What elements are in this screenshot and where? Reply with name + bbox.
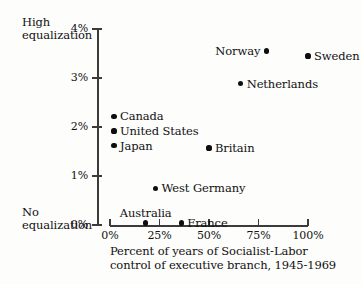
data-point	[179, 220, 184, 225]
data-point	[206, 145, 211, 150]
y-tick-mark	[92, 224, 102, 225]
x-tick-mark	[307, 219, 308, 226]
y-tick-mark	[92, 77, 102, 78]
data-point-label: Sweden	[314, 50, 360, 62]
data-point-label: Norway	[215, 45, 260, 57]
y-tick-label: 3%	[18, 72, 88, 83]
x-tick-mark	[159, 219, 160, 226]
data-point	[153, 186, 158, 191]
x-tick-label: 100%	[285, 230, 331, 242]
y-tick-label: 2%	[18, 121, 88, 132]
x-axis-title: Percent of years of Socialist-Labor cont…	[110, 245, 350, 272]
x-tick-label: 25%	[137, 230, 183, 242]
x-tick-label: 0%	[87, 230, 133, 242]
data-point	[111, 143, 116, 148]
x-tick-mark	[109, 219, 110, 226]
data-point-label: West Germany	[162, 182, 246, 194]
data-point	[111, 114, 116, 119]
data-point	[143, 220, 148, 225]
y-tick-label: 1%	[18, 170, 88, 181]
y-tick-mark	[92, 28, 102, 29]
y-tick-mark	[92, 126, 102, 127]
scatter-plot-figure: 0%1%2%3%4% 0%25%50%75%100% High equaliza…	[0, 0, 362, 284]
x-tick-label: 75%	[236, 230, 282, 242]
data-point	[238, 81, 243, 86]
data-point	[264, 48, 269, 53]
data-point	[305, 53, 310, 58]
data-point-label: Japan	[120, 140, 153, 152]
y-axis-anchor-low-label: No equalization	[22, 206, 88, 231]
data-point-label: Canada	[120, 110, 164, 122]
y-tick-mark	[92, 175, 102, 176]
data-point-label: Australia	[120, 207, 172, 219]
x-tick-label: 50%	[186, 230, 232, 242]
data-point-label: France	[187, 217, 227, 229]
y-axis-anchor-high-label: High equalization	[22, 16, 88, 41]
data-point-label: United States	[120, 125, 199, 137]
data-point-label: Britain	[215, 142, 255, 154]
data-point	[111, 128, 116, 133]
data-point-label: Netherlands	[247, 78, 318, 90]
x-tick-mark	[258, 219, 259, 226]
